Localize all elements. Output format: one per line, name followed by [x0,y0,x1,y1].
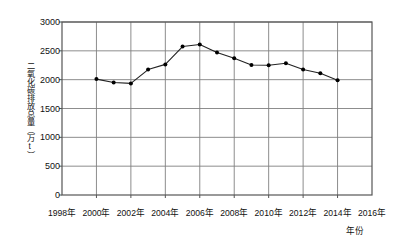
x-tick-label: 2012年 [289,206,317,218]
x-tick-label: 2004年 [151,206,179,218]
x-axis-title: 年份 [346,224,364,236]
x-tick-label: 2016年 [358,206,386,218]
x-tick-label: 1998年 [48,206,76,218]
x-tick-label: 2000年 [82,206,110,218]
x-tick-label: 2010年 [255,206,283,218]
x-axis-tick-labels: 1998年2000年2002年2004年2006年2008年2010年2012年… [0,0,399,244]
co2-emissions-line-chart: 二氧化碳排放总量（万t） 050010001500200025003000 19… [0,0,399,244]
x-tick-label: 2006年 [186,206,214,218]
x-tick-label: 2002年 [117,206,145,218]
x-tick-label: 2008年 [220,206,248,218]
x-tick-label: 2014年 [323,206,351,218]
